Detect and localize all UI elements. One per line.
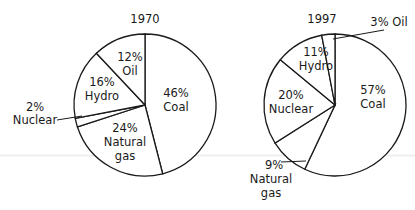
label-1997-nuclear-name: Nuclear [269,102,314,116]
label-1997-nuclear-pct: 20% [278,88,304,102]
pie-1970-title: 1970 [130,12,159,26]
label-1997-gas-name1: Natural [250,172,292,186]
label-1970-oil-pct: 12% [117,50,143,64]
label-1997-coal-name: Coal [360,97,385,111]
pie-1970-slices [74,34,216,176]
label-1970-gas-pct: 24% [112,121,138,135]
label-1997-oil: 3% Oil [370,15,407,29]
label-1970-hydro-pct: 16% [89,75,115,89]
label-1970-gas-name1: Natural [104,135,146,149]
label-1970-coal-pct: 46% [163,86,189,100]
pie-1997: 1997 3% Oil 11% Hydro 20% Nuclear 57% Co… [250,12,408,200]
pie-1970: 1970 12% Oil 16% Hydro 46% Coal 24% Natu… [13,12,216,176]
label-1970-nuclear-pct: 2% [26,100,44,114]
label-1997-gas-name2: gas [261,186,281,200]
pie-1997-title: 1997 [307,12,336,26]
label-1970-gas-name2: gas [115,149,135,163]
label-1997-coal-pct: 57% [360,83,386,97]
label-1997-gas-pct: 9% [265,158,283,172]
label-1970-nuclear-name: Nuclear [13,113,58,127]
label-1970-hydro-name: Hydro [85,89,119,103]
label-1997-hydro-pct: 11% [303,45,329,59]
label-1970-coal-name: Coal [163,100,188,114]
label-1997-hydro-name: Hydro [299,59,333,73]
pie-charts: 1970 12% Oil 16% Hydro 46% Coal 24% Natu… [0,0,415,210]
label-1970-oil-name: Oil [122,64,137,78]
